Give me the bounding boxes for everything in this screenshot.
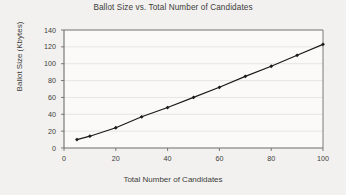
chart-figure: Ballot Size vs. Total Number of Candidat… <box>0 0 346 195</box>
plot-background <box>64 30 323 148</box>
plot-area <box>0 0 346 195</box>
